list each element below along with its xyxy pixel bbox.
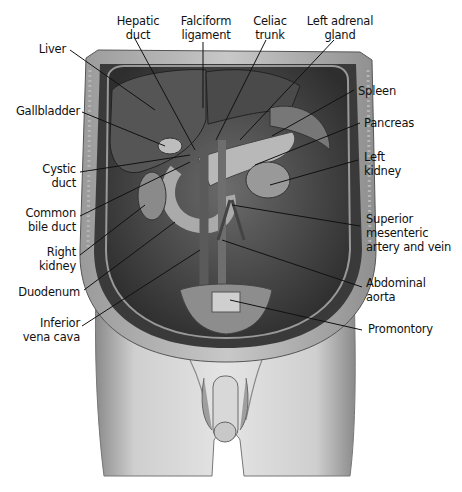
label-hepatic-duct: Hepatic duct <box>106 14 170 42</box>
label-pancreas: Pancreas <box>364 116 414 130</box>
label-celiac-trunk: Celiac trunk <box>245 14 295 42</box>
anatomy-figure: Hepatic duct Falciform ligament Celiac t… <box>0 0 462 492</box>
label-left-adrenal-gland: Left adrenal gland <box>300 14 380 42</box>
label-common-bile-duct: Common bile duct <box>2 206 76 234</box>
label-duodenum: Duodenum <box>2 285 80 299</box>
label-abdominal-aorta: Abdominal aorta <box>366 276 426 304</box>
label-cystic-duct: Cystic duct <box>2 162 76 190</box>
label-falciform-ligament: Falciform ligament <box>174 14 238 42</box>
label-spleen: Spleen <box>358 84 396 98</box>
label-inferior-vena-cava: Inferior vena cava <box>2 316 80 344</box>
label-promontory: Promontory <box>368 322 433 336</box>
label-superior-mesenteric: Superior mesenteric artery and vein <box>366 212 451 254</box>
label-gallbladder: Gallbladder <box>2 104 80 118</box>
label-liver: Liver <box>2 42 66 56</box>
label-right-kidney: Right kidney <box>2 245 76 273</box>
label-left-kidney: Left kidney <box>364 150 401 178</box>
